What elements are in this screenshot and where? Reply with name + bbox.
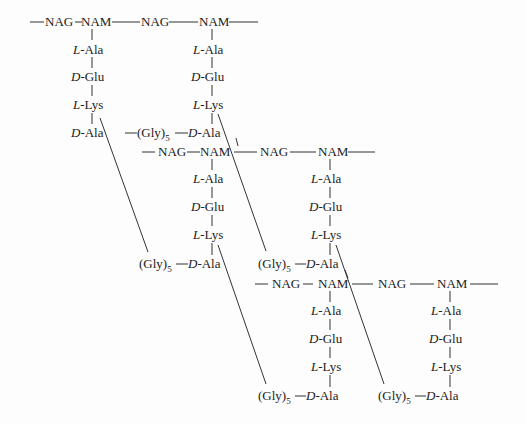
svg-text:NAG: NAG [272, 276, 300, 291]
svg-text:NAG: NAG [158, 144, 186, 159]
glycan-chain-1: NAG NAM NAG NAM [30, 14, 258, 29]
svg-text:(Gly)5: (Gly)5 [258, 388, 291, 406]
svg-text:D-Glu: D-Glu [190, 69, 225, 84]
svg-text:NAG: NAG [260, 144, 288, 159]
svg-text:NAM: NAM [437, 276, 468, 291]
svg-text:NAM: NAM [318, 144, 349, 159]
svg-text:L-Lys: L-Lys [72, 97, 103, 112]
stem-peptide-2b: L-Ala D-Glu L-Lys (Gly)5 D-Ala [258, 159, 343, 274]
stem-peptide-1b: L-Ala D-Glu L-Lys (Gly)5 D-Ala [125, 29, 225, 143]
svg-text:D-Glu: D-Glu [428, 331, 463, 346]
svg-text:L-Ala: L-Ala [72, 42, 104, 57]
svg-text:L-Lys: L-Lys [192, 227, 223, 242]
svg-text:D-Ala: D-Ala [305, 256, 339, 271]
stem-peptide-3a: L-Ala D-Glu L-Lys (Gly)5 D-Ala [258, 291, 343, 406]
nam-1b: NAM [199, 14, 230, 29]
svg-text:L-Lys: L-Lys [310, 227, 341, 242]
svg-text:NAM: NAM [318, 276, 349, 291]
stem-peptide-1a: L-Ala D-Glu L-Lys D-Ala [70, 29, 105, 140]
svg-text:L-Ala: L-Ala [310, 303, 342, 318]
svg-text:D-Ala: D-Ala [305, 388, 339, 403]
nag-1b: NAG [141, 14, 169, 29]
svg-text:NAG: NAG [378, 276, 406, 291]
svg-text:L-Lys: L-Lys [310, 359, 341, 374]
glycan-chain-2: NAG NAM NAG NAM [142, 144, 375, 159]
svg-text:D-Ala: D-Ala [187, 256, 221, 271]
svg-text:D-Ala: D-Ala [187, 125, 221, 140]
svg-text:D-Ala: D-Ala [425, 388, 459, 403]
svg-text:L-Ala: L-Ala [310, 171, 342, 186]
stem-peptide-3b: L-Ala D-Glu L-Lys (Gly)5 D-Ala [378, 291, 463, 406]
svg-text:D-Glu: D-Glu [308, 331, 343, 346]
svg-text:(Gly)5: (Gly)5 [139, 256, 172, 274]
svg-text:D-Glu: D-Glu [190, 199, 225, 214]
nag-1a: NAG [45, 14, 73, 29]
stem-peptide-2a: L-Ala D-Glu L-Lys (Gly)5 D-Ala [139, 159, 225, 274]
svg-text:L-Lys: L-Lys [430, 359, 461, 374]
svg-text:NAM: NAM [200, 144, 231, 159]
svg-text:L-Ala: L-Ala [192, 171, 224, 186]
svg-text:D-Ala: D-Ala [70, 125, 104, 140]
svg-text:(Gly)5: (Gly)5 [378, 388, 411, 406]
svg-text:(Gly)5: (Gly)5 [258, 256, 291, 274]
peptidoglycan-diagram: NAG NAM NAG NAM L-Ala D-Glu L-Lys D-Ala … [0, 0, 526, 424]
svg-text:L-Ala: L-Ala [192, 42, 224, 57]
nam-1a: NAM [81, 14, 112, 29]
svg-text:L-Lys: L-Lys [192, 97, 223, 112]
svg-text:L-Ala: L-Ala [430, 303, 462, 318]
glycan-chain-3: NAG NAM NAG NAM [255, 276, 498, 291]
svg-text:(Gly)5: (Gly)5 [137, 125, 170, 143]
svg-text:D-Glu: D-Glu [308, 199, 343, 214]
svg-text:D-Glu: D-Glu [70, 69, 105, 84]
